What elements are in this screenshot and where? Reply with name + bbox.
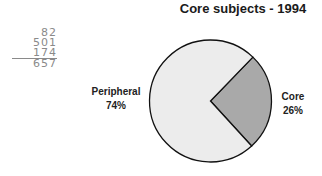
peripheral-name: Peripheral xyxy=(86,85,146,99)
core-name: Core xyxy=(276,90,310,104)
core-label: Core 26% xyxy=(276,90,310,118)
core-value: 26% xyxy=(276,104,310,118)
peripheral-value: 74% xyxy=(86,99,146,113)
peripheral-label: Peripheral 74% xyxy=(86,85,146,113)
pie-chart xyxy=(0,0,322,176)
